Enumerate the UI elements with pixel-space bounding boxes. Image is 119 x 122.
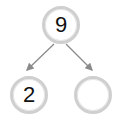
arrow-to-right [66,44,92,70]
whole-circle: 9 [42,6,80,44]
arrow-to-left [27,44,54,70]
part-left-value: 2 [23,84,35,106]
whole-value: 9 [55,14,67,36]
part-circle-left: 2 [10,76,48,114]
part-circle-right[interactable] [74,76,112,114]
